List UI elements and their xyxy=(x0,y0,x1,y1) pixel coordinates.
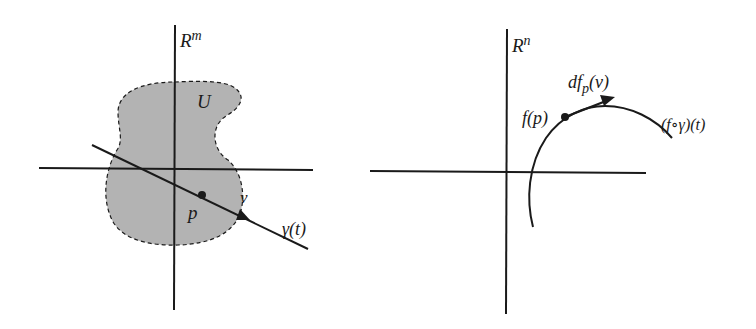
point-label-p: p xyxy=(186,202,198,223)
region-label-u: U xyxy=(197,91,212,112)
left-panel-domain: Rm U p v γ(t) xyxy=(39,25,313,310)
differential-map-diagram: Rm U p v γ(t) Rn f(p) dfp(v) (f∘γ)(t) xyxy=(0,0,756,329)
horizontal-axis-rm xyxy=(39,168,313,170)
space-label-rn: Rn xyxy=(511,33,531,56)
right-panel-codomain: Rn f(p) dfp(v) (f∘γ)(t) xyxy=(370,29,705,314)
vector-label-v: v xyxy=(240,188,248,207)
image-curve-f-gamma xyxy=(529,106,672,227)
space-label-rm: Rm xyxy=(179,28,202,51)
point-label-f-of-p: f(p) xyxy=(522,108,548,129)
horizontal-axis-rn xyxy=(370,171,646,173)
point-f-of-p xyxy=(561,113,569,121)
curve-label-gamma: γ(t) xyxy=(282,219,306,240)
curve-label-f-gamma: (f∘γ)(t) xyxy=(661,116,705,134)
pushforward-vector-line xyxy=(565,101,606,117)
vertical-axis-rm xyxy=(174,25,175,310)
point-p xyxy=(198,191,206,199)
pushforward-vector-arrowhead xyxy=(600,95,615,106)
vector-label-dfp-v: dfp(v) xyxy=(568,72,609,96)
